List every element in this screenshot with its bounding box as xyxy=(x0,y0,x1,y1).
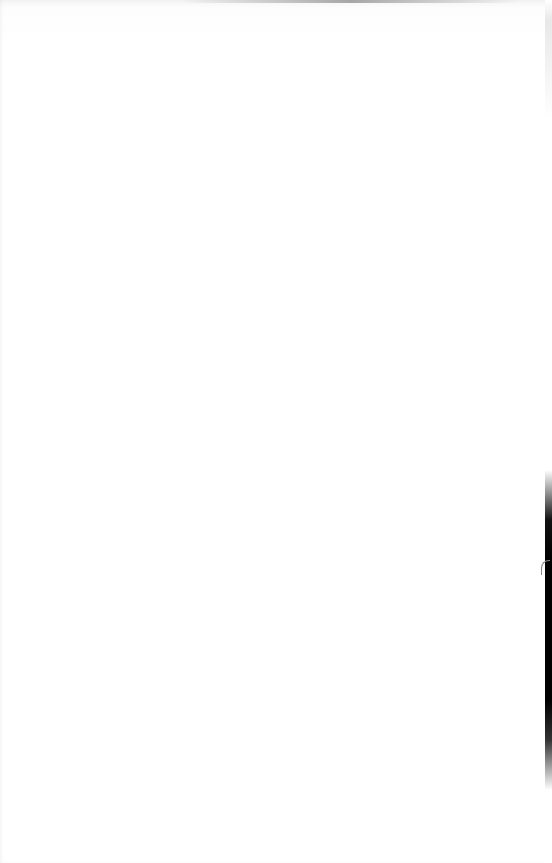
paper-curl xyxy=(541,560,550,575)
right-dark-edge xyxy=(545,0,552,863)
top-edge-shadow xyxy=(180,0,520,3)
blank-paper-sheet xyxy=(0,0,545,863)
